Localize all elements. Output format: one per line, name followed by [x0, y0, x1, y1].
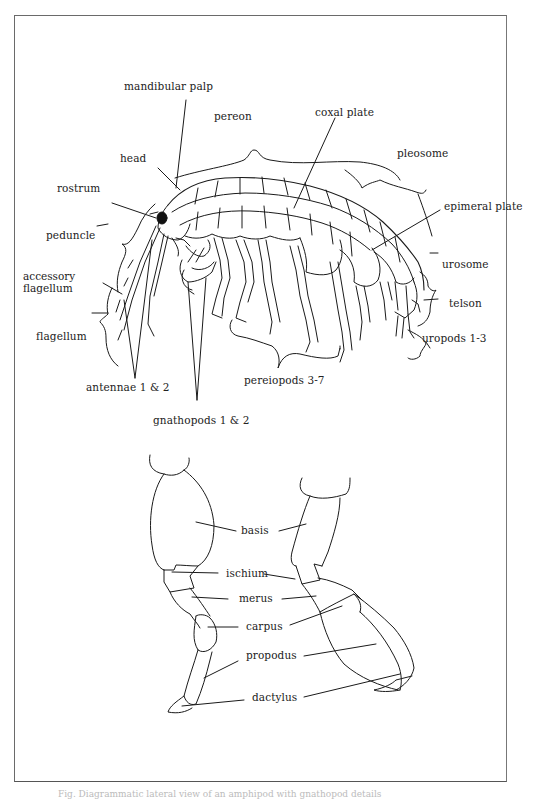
- label-pereiopods: pereiopods 3-7: [244, 374, 325, 386]
- label-rostrum: rostrum: [57, 182, 100, 194]
- label-peduncle: peduncle: [46, 229, 95, 241]
- label-coxal-plate: coxal plate: [315, 106, 374, 118]
- label-gnathopods: gnathopods 1 & 2: [153, 414, 250, 426]
- label-antennae: antennae 1 & 2: [86, 381, 170, 393]
- label-accessory-flagellum: accessory flagellum: [23, 270, 93, 294]
- label-propodus: propodus: [246, 649, 297, 661]
- figure-caption: Fig. Diagrammatic lateral view of an amp…: [58, 789, 381, 799]
- label-carpus: carpus: [246, 620, 283, 632]
- label-telson: telson: [449, 297, 482, 309]
- label-flagellum: flagellum: [36, 330, 87, 342]
- label-basis: basis: [241, 524, 269, 536]
- label-epimeral-plate: epimeral plate: [444, 200, 523, 212]
- label-dactylus: dactylus: [252, 691, 297, 703]
- label-ischium: ischium: [226, 567, 268, 579]
- label-mandibular-palp: mandibular palp: [124, 80, 213, 92]
- label-uropods: uropods 1-3: [422, 332, 487, 344]
- label-merus: merus: [239, 592, 273, 604]
- label-head: head: [120, 152, 146, 164]
- label-pereon: pereon: [214, 110, 252, 122]
- label-urosome: urosome: [442, 258, 489, 270]
- label-pleosome: pleosome: [397, 147, 448, 159]
- amphipod-illustration: [0, 0, 541, 799]
